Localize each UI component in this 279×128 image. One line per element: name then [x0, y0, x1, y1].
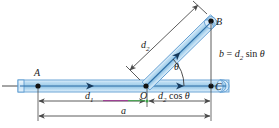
d2cos-label: d2 cos θ [158, 90, 190, 104]
d2-extension-tick-near-o [126, 66, 140, 80]
dimension-b: b = d2 sin θ [211, 22, 265, 85]
physics-diagram-figure: d2 θ A O B C b = d2 sin θ [0, 0, 279, 128]
b-equation-label: b = d2 sin θ [219, 48, 265, 62]
dimension-a: a [39, 105, 210, 116]
d2-label: d2 [141, 39, 150, 53]
point-c-label: C [215, 81, 222, 92]
point-a-label: A [33, 67, 41, 78]
theta-label: θ [174, 61, 179, 72]
angled-rod [142, 14, 219, 89]
point-o-dot [143, 83, 148, 88]
diagram-canvas: d2 θ A O B C b = d2 sin θ [0, 0, 279, 128]
point-b-label: B [216, 16, 222, 27]
point-o-label: O [140, 90, 147, 101]
d2cos-origin-marker [145, 99, 148, 102]
a-label: a [121, 105, 126, 116]
point-a-dot [35, 83, 40, 88]
